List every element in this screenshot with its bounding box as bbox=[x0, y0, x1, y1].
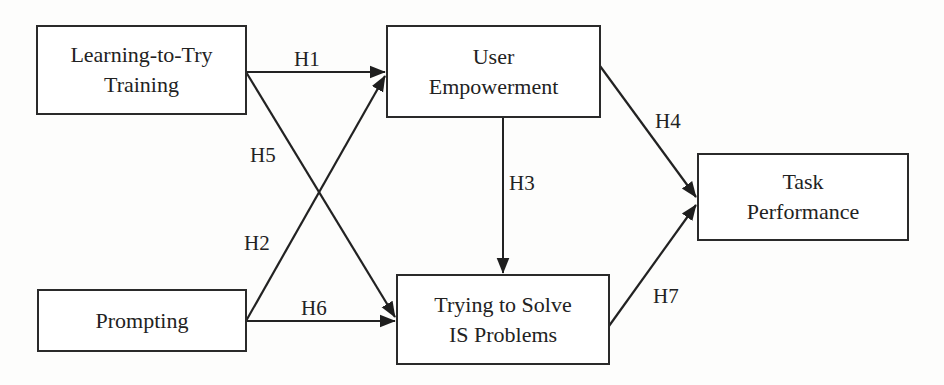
node-label-line: Empowerment bbox=[429, 72, 559, 102]
node-label-line: IS Problems bbox=[449, 320, 557, 350]
node-learning-to-try-training: Learning-to-Try Training bbox=[36, 25, 247, 115]
node-label-line: Learning-to-Try bbox=[70, 40, 212, 70]
diagram-canvas: Learning-to-Try Training User Empowermen… bbox=[0, 0, 944, 385]
node-label-line: Trying to Solve bbox=[434, 290, 571, 320]
edge-h4-arrow bbox=[600, 66, 696, 197]
node-trying-to-solve-is-problems: Trying to Solve IS Problems bbox=[396, 274, 610, 365]
node-label-line: Performance bbox=[747, 197, 859, 227]
node-prompting: Prompting bbox=[37, 289, 247, 352]
node-label-line: Training bbox=[104, 70, 179, 100]
node-label-line: Task bbox=[782, 167, 823, 197]
edge-label-h3: H3 bbox=[509, 172, 535, 194]
edge-label-h4: H4 bbox=[655, 110, 681, 132]
edge-label-h5: H5 bbox=[250, 144, 276, 166]
edge-label-h1: H1 bbox=[294, 48, 320, 70]
edge-h2-arrow bbox=[246, 76, 385, 321]
edge-label-h2: H2 bbox=[244, 232, 270, 254]
node-label-line: Prompting bbox=[96, 306, 189, 336]
node-task-performance: Task Performance bbox=[697, 153, 909, 241]
node-label-line: User bbox=[473, 42, 515, 72]
edge-label-h7: H7 bbox=[653, 285, 679, 307]
node-user-empowerment: User Empowerment bbox=[386, 25, 601, 118]
edge-label-h6: H6 bbox=[301, 297, 327, 319]
